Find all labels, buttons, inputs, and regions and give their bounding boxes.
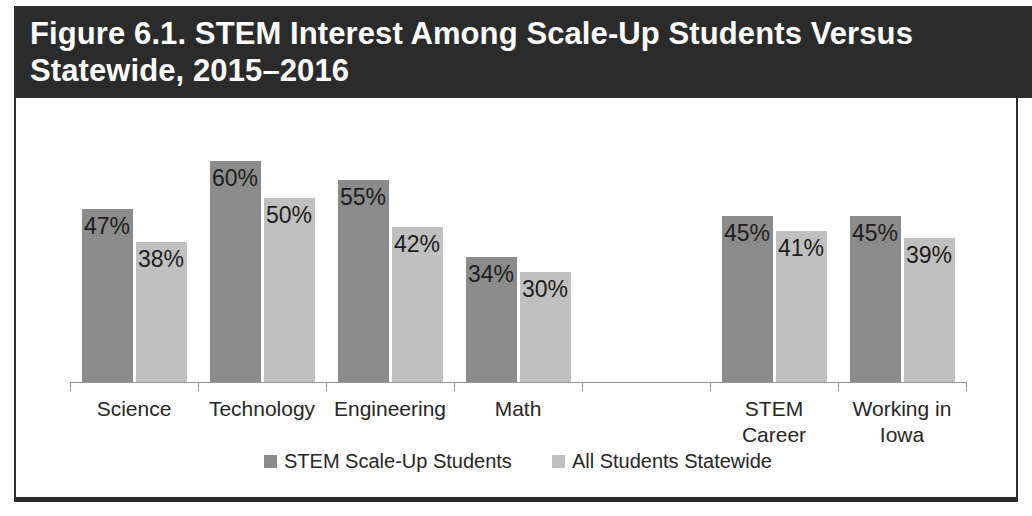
bar-value-label: 45% bbox=[722, 220, 773, 247]
bar-statewide[interactable]: 39% bbox=[904, 238, 955, 382]
bar-scale-up[interactable]: 47% bbox=[82, 209, 133, 382]
bar-pair: 47%38% bbox=[70, 106, 198, 382]
bar-value-label: 55% bbox=[338, 184, 389, 211]
x-axis-tick bbox=[198, 382, 199, 391]
bar-group: 34%30% bbox=[454, 106, 582, 382]
bar-statewide[interactable]: 50% bbox=[264, 198, 315, 382]
bar-group: 47%38% bbox=[70, 106, 198, 382]
bar-group: 55%42% bbox=[326, 106, 454, 382]
x-axis-line bbox=[70, 382, 966, 383]
x-axis-tick bbox=[966, 382, 967, 391]
legend-label: STEM Scale-Up Students bbox=[284, 450, 512, 473]
x-axis-tick bbox=[326, 382, 327, 391]
bars-layer: 47%38%60%50%55%42%34%30%45%41%45%39% bbox=[70, 106, 966, 382]
bar-group: 45%41% bbox=[710, 106, 838, 382]
bar-value-label: 50% bbox=[264, 202, 315, 229]
bar-value-label: 34% bbox=[466, 261, 517, 288]
bar-value-label: 39% bbox=[904, 242, 955, 269]
bar-scale-up[interactable]: 34% bbox=[466, 257, 517, 382]
plot-area: 47%38%60%50%55%42%34%30%45%41%45%39% Sci… bbox=[16, 98, 1020, 502]
bar-pair: 45%39% bbox=[838, 106, 966, 382]
bar-value-label: 42% bbox=[392, 231, 443, 258]
category-label: Science bbox=[70, 396, 198, 422]
bar-value-label: 45% bbox=[850, 220, 901, 247]
category-label: Engineering bbox=[326, 396, 454, 422]
category-label: Technology bbox=[198, 396, 326, 422]
bar-pair: 45%41% bbox=[710, 106, 838, 382]
figure-title-band: Figure 6.1. STEM Interest Among Scale-Up… bbox=[14, 6, 1032, 98]
bar-scale-up[interactable]: 45% bbox=[722, 216, 773, 382]
bar-group: 60%50% bbox=[198, 106, 326, 382]
bar-scale-up[interactable]: 60% bbox=[210, 161, 261, 382]
bar-value-label: 38% bbox=[136, 246, 187, 273]
legend-swatch-scale-up bbox=[264, 455, 277, 468]
legend-swatch-statewide bbox=[552, 455, 565, 468]
bar-scale-up[interactable]: 45% bbox=[850, 216, 901, 382]
x-axis-tick bbox=[70, 382, 71, 391]
bar-statewide[interactable]: 42% bbox=[392, 227, 443, 382]
bar-value-label: 47% bbox=[82, 213, 133, 240]
bar-value-label: 30% bbox=[520, 276, 571, 303]
bar-value-label: 60% bbox=[210, 165, 261, 192]
bar-group bbox=[582, 106, 710, 382]
x-axis-tick bbox=[838, 382, 839, 391]
legend-label: All Students Statewide bbox=[572, 450, 772, 473]
category-label: Working in Iowa bbox=[838, 396, 966, 449]
chart-legend: STEM Scale-Up StudentsAll Students State… bbox=[16, 450, 1020, 473]
bar-group: 45%39% bbox=[838, 106, 966, 382]
bar-pair: 34%30% bbox=[454, 106, 582, 382]
bar-scale-up[interactable]: 55% bbox=[338, 180, 389, 382]
x-axis-tick bbox=[582, 382, 583, 391]
bar-statewide[interactable]: 30% bbox=[520, 272, 571, 382]
category-label: Math bbox=[454, 396, 582, 422]
page-title: Figure 6.1. STEM Interest Among Scale-Up… bbox=[30, 16, 1016, 89]
chart-frame: 47%38%60%50%55%42%34%30%45%41%45%39% Sci… bbox=[14, 98, 1018, 502]
bar-statewide[interactable]: 38% bbox=[136, 242, 187, 382]
category-label: STEM Career bbox=[710, 396, 838, 449]
x-axis-tick bbox=[454, 382, 455, 391]
bar-pair bbox=[582, 106, 710, 382]
figure-container: Figure 6.1. STEM Interest Among Scale-Up… bbox=[0, 0, 1032, 516]
bar-pair: 60%50% bbox=[198, 106, 326, 382]
legend-item[interactable]: All Students Statewide bbox=[552, 450, 772, 473]
legend-item[interactable]: STEM Scale-Up Students bbox=[264, 450, 512, 473]
bar-pair: 55%42% bbox=[326, 106, 454, 382]
x-axis-tick bbox=[710, 382, 711, 391]
bar-value-label: 41% bbox=[776, 235, 827, 262]
bar-statewide[interactable]: 41% bbox=[776, 231, 827, 382]
